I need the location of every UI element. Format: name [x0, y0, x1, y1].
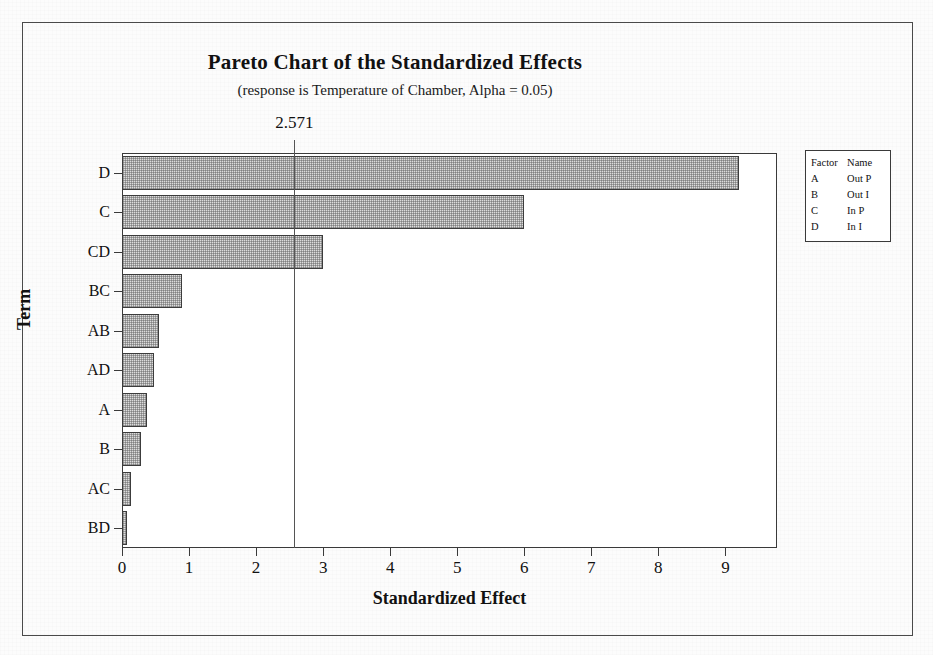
y-axis-label-a: A: [50, 401, 110, 419]
x-axis-title: Standardized Effect: [122, 588, 777, 609]
legend-header-row: Factor Name: [811, 155, 885, 171]
legend-name-a: Out P: [847, 171, 885, 187]
y-axis-label-bc: BC: [50, 282, 110, 300]
legend-row: AOut P: [811, 171, 885, 187]
bar-ab: [122, 314, 159, 348]
legend-header-factor: Factor: [811, 155, 847, 171]
reference-line: [294, 153, 295, 548]
y-axis-label-bd: BD: [50, 519, 110, 537]
y-axis-title: Term: [14, 289, 35, 330]
x-tick-6: [524, 548, 525, 556]
bar-b: [122, 432, 141, 466]
legend-row: CIn P: [811, 203, 885, 219]
x-axis-label-6: 6: [520, 558, 529, 578]
bars-layer: [122, 153, 777, 548]
x-axis-label-7: 7: [587, 558, 596, 578]
reference-line-label: 2.571: [275, 113, 313, 133]
x-axis-label-5: 5: [453, 558, 462, 578]
x-tick-1: [189, 548, 190, 556]
x-axis-label-4: 4: [386, 558, 395, 578]
legend-factor-b: B: [811, 187, 847, 203]
legend-header-name: Name: [847, 155, 885, 171]
x-tick-8: [658, 548, 659, 556]
y-tick-cd: [114, 252, 122, 253]
bar-ac: [122, 472, 131, 506]
y-axis-label-ab: AB: [50, 322, 110, 340]
x-axis-label-3: 3: [319, 558, 328, 578]
legend-row: DIn I: [811, 219, 885, 235]
bar-c: [122, 195, 524, 229]
legend-factor-c: C: [811, 203, 847, 219]
factor-name-legend: Factor Name AOut PBOut ICIn PDIn I: [805, 150, 891, 242]
legend-factor-d: D: [811, 219, 847, 235]
y-tick-d: [114, 173, 122, 174]
legend-name-d: In I: [847, 219, 885, 235]
x-axis-label-0: 0: [118, 558, 127, 578]
x-tick-4: [390, 548, 391, 556]
y-axis-label-b: B: [50, 440, 110, 458]
bar-cd: [122, 235, 323, 269]
reference-line-tick: [294, 140, 295, 153]
y-tick-ad: [114, 370, 122, 371]
y-tick-b: [114, 449, 122, 450]
y-axis-label-cd: CD: [50, 243, 110, 261]
y-tick-ac: [114, 489, 122, 490]
legend-name-b: Out I: [847, 187, 885, 203]
bar-bc: [122, 274, 182, 308]
bar-d: [122, 156, 739, 190]
x-tick-7: [591, 548, 592, 556]
bar-ad: [122, 353, 154, 387]
legend-factor-a: A: [811, 171, 847, 187]
y-tick-a: [114, 410, 122, 411]
pareto-chart-page: Pareto Chart of the Standardized Effects…: [0, 0, 933, 655]
bar-bd: [122, 511, 127, 545]
y-axis-label-d: D: [50, 164, 110, 182]
x-axis-label-1: 1: [185, 558, 194, 578]
x-axis-label-9: 9: [721, 558, 730, 578]
y-tick-ab: [114, 331, 122, 332]
x-tick-9: [725, 548, 726, 556]
x-tick-0: [122, 548, 123, 556]
y-tick-bd: [114, 528, 122, 529]
x-axis-label-8: 8: [654, 558, 663, 578]
x-tick-2: [256, 548, 257, 556]
legend-name-c: In P: [847, 203, 885, 219]
y-axis-label-ac: AC: [50, 480, 110, 498]
y-axis-labels: DCCDBCABADABACBD: [45, 0, 110, 655]
bar-a: [122, 393, 147, 427]
y-axis-label-c: C: [50, 203, 110, 221]
chart-title: Pareto Chart of the Standardized Effects: [0, 50, 790, 75]
y-tick-c: [114, 212, 122, 213]
chart-subtitle: (response is Temperature of Chamber, Alp…: [0, 82, 790, 99]
x-tick-3: [323, 548, 324, 556]
y-tick-bc: [114, 291, 122, 292]
x-tick-5: [457, 548, 458, 556]
y-axis-label-ad: AD: [50, 361, 110, 379]
x-axis-label-2: 2: [252, 558, 261, 578]
legend-row: BOut I: [811, 187, 885, 203]
